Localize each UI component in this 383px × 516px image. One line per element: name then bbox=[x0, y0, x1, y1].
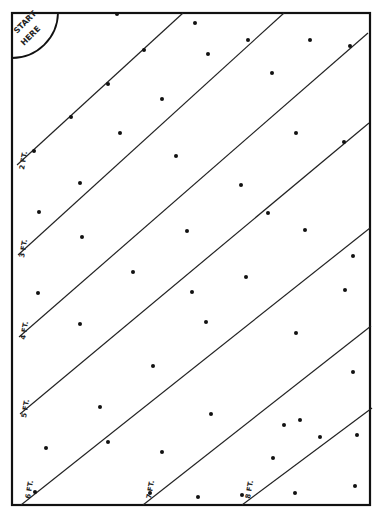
row-lines bbox=[17, 13, 372, 505]
seed-dot bbox=[308, 38, 312, 42]
seed-dot bbox=[244, 275, 248, 279]
seed-dot bbox=[348, 44, 352, 48]
seed-dot bbox=[193, 21, 197, 25]
seed-dot bbox=[240, 493, 244, 497]
seed-dots bbox=[32, 12, 359, 499]
seed-dot bbox=[142, 48, 146, 52]
seed-dot bbox=[351, 370, 355, 374]
seed-dot bbox=[294, 331, 298, 335]
row-line bbox=[18, 13, 284, 255]
seed-dot bbox=[115, 12, 119, 16]
seed-dot bbox=[293, 491, 297, 495]
seed-dot bbox=[118, 131, 122, 135]
seed-dot bbox=[209, 412, 213, 416]
seed-dot bbox=[151, 364, 155, 368]
row-line bbox=[143, 326, 371, 505]
seed-dot bbox=[36, 291, 40, 295]
seed-dot bbox=[355, 433, 359, 437]
row-distance-label: 3 FT. bbox=[18, 239, 29, 259]
seed-dot bbox=[206, 52, 210, 56]
row-distance-label: 2 FT. bbox=[18, 151, 29, 171]
seed-dot bbox=[32, 149, 36, 153]
seed-dot bbox=[353, 484, 357, 488]
seed-dot bbox=[44, 446, 48, 450]
field-frame bbox=[12, 13, 370, 505]
seed-dot bbox=[78, 322, 82, 326]
row-distance-label: 5 FT. bbox=[20, 399, 31, 419]
seed-dot bbox=[266, 211, 270, 215]
row-distance-label: 4 FT. bbox=[19, 321, 30, 341]
seed-dot bbox=[196, 495, 200, 499]
seed-dot bbox=[239, 183, 243, 187]
seed-dot bbox=[78, 181, 82, 185]
planting-diagram: START HERE 2 FT.3 FT.4 FT.5 FT.6 FT.7 FT… bbox=[0, 0, 383, 516]
seed-dot bbox=[271, 456, 275, 460]
seed-dot bbox=[69, 115, 73, 119]
seed-dot bbox=[148, 491, 152, 495]
seed-dot bbox=[318, 435, 322, 439]
seed-dot bbox=[37, 210, 41, 214]
seed-dot bbox=[298, 418, 302, 422]
seed-dot bbox=[131, 270, 135, 274]
seed-dot bbox=[343, 288, 347, 292]
row-line bbox=[242, 408, 372, 505]
seed-dot bbox=[282, 423, 286, 427]
seed-dot bbox=[342, 140, 346, 144]
seed-dot bbox=[106, 82, 110, 86]
seed-dot bbox=[174, 154, 178, 158]
seed-dot bbox=[351, 254, 355, 258]
row-labels: 2 FT.3 FT.4 FT.5 FT.6 FT.7 FT.8 FT. bbox=[18, 151, 255, 500]
seed-dot bbox=[246, 38, 250, 42]
seed-dot bbox=[80, 235, 84, 239]
row-line bbox=[20, 123, 369, 414]
seed-dot bbox=[160, 97, 164, 101]
seed-dot bbox=[33, 490, 37, 494]
seed-dot bbox=[270, 71, 274, 75]
row-distance-label: 6 FT. bbox=[24, 480, 35, 500]
seed-dot bbox=[106, 440, 110, 444]
seed-dot bbox=[294, 131, 298, 135]
seed-dot bbox=[303, 228, 307, 232]
seed-dot bbox=[160, 450, 164, 454]
seed-dot bbox=[190, 290, 194, 294]
seed-dot bbox=[185, 229, 189, 233]
row-line bbox=[17, 13, 183, 165]
seed-dot bbox=[98, 405, 102, 409]
seed-dot bbox=[204, 320, 208, 324]
